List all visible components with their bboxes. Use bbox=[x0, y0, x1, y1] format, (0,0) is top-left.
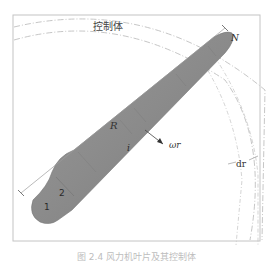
annulus-width-label: dr bbox=[236, 160, 246, 169]
section-label-tip: N bbox=[231, 34, 239, 43]
section-label-1: 1 bbox=[44, 203, 50, 212]
angular-velocity-label: ωr bbox=[169, 141, 181, 150]
dr-tick-left bbox=[228, 162, 236, 164]
section-label-2: 2 bbox=[59, 189, 65, 198]
dr-tick-right bbox=[249, 156, 258, 160]
annulus-outer-arc bbox=[210, 50, 258, 245]
control-volume-label: 控制体 bbox=[93, 22, 123, 32]
radius-label: R bbox=[110, 121, 118, 131]
figure-caption: 图 2.4 风力机叶片及其控制体 bbox=[0, 250, 273, 263]
velocity-arrow-head bbox=[157, 138, 163, 144]
annulus-inner-arc bbox=[198, 55, 242, 245]
radius-dimension-line bbox=[21, 28, 225, 193]
section-label-i: i bbox=[127, 144, 130, 153]
